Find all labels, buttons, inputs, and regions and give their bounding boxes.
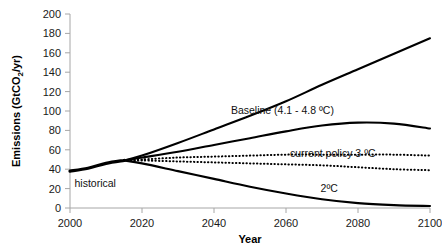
- series-curve-two-degrees: [124, 160, 430, 206]
- y-axis-ticks: [65, 14, 70, 208]
- y-tick-label: 120: [43, 86, 61, 98]
- x-tick-label: 2000: [58, 217, 82, 229]
- series-label-current-policy-dotted-upper: current policy 3 ºC: [290, 147, 376, 159]
- emissions-scenarios-chart: 020406080100120140160180200 Emissions (G…: [0, 0, 442, 249]
- x-axis-ticks: [70, 208, 430, 213]
- y-axis-tick-labels: 020406080100120140160180200: [43, 8, 61, 214]
- series-curve-current-policy-dotted-upper: [124, 155, 430, 161]
- y-axis-title: Emissions (GtCO2/yr): [10, 55, 25, 167]
- y-tick-label: 40: [49, 163, 61, 175]
- x-tick-label: 2080: [346, 217, 370, 229]
- y-tick-label: 140: [43, 66, 61, 78]
- y-tick-label: 180: [43, 27, 61, 39]
- x-tick-label: 2100: [418, 217, 442, 229]
- x-tick-label: 2020: [130, 217, 154, 229]
- x-axis-group: 200020202040206020802100 Year: [58, 208, 442, 245]
- series-curve-historical: [70, 160, 124, 171]
- x-axis-title: Year: [238, 233, 262, 245]
- y-tick-label: 100: [43, 105, 61, 117]
- y-axis-group: 020406080100120140160180200 Emissions (G…: [10, 8, 70, 214]
- series-label-baseline: Baseline (4.1 - 4.8 ºC): [231, 104, 334, 116]
- series-label-two-degrees: 2ºC: [321, 182, 339, 194]
- series-curves: [70, 38, 430, 206]
- x-axis-tick-labels: 200020202040206020802100: [58, 217, 442, 229]
- y-tick-label: 80: [49, 124, 61, 136]
- y-tick-label: 200: [43, 8, 61, 20]
- x-tick-label: 2040: [202, 217, 226, 229]
- y-tick-label: 60: [49, 144, 61, 156]
- series-label-historical: historical: [74, 177, 115, 189]
- chart-canvas: 020406080100120140160180200 Emissions (G…: [0, 0, 442, 249]
- y-tick-label: 20: [49, 183, 61, 195]
- series-curve-baseline: [124, 38, 430, 160]
- y-tick-label: 0: [55, 202, 61, 214]
- x-tick-label: 2060: [274, 217, 298, 229]
- y-tick-label: 160: [43, 47, 61, 59]
